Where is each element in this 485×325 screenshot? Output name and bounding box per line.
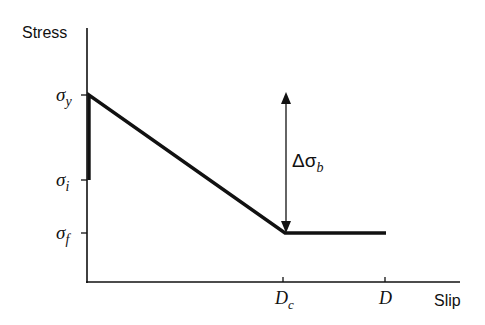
slip-weakening-diagram: Stress Slip σy σi σf Dc D Δσb [0, 0, 485, 325]
stress-slip-curve [89, 95, 386, 233]
label-dc: Dc [274, 288, 294, 312]
y-axis-label: Stress [22, 24, 67, 41]
x-axis-label: Slip [434, 292, 461, 309]
label-sigma-i: σi [56, 169, 69, 194]
label-d: D [378, 288, 392, 308]
label-sigma-f: σf [56, 222, 71, 247]
arrow-up-icon [281, 92, 291, 104]
label-sigma-y: σy [56, 84, 72, 109]
label-delta-sigma-b: Δσb [292, 150, 323, 175]
